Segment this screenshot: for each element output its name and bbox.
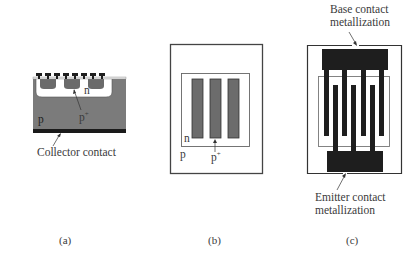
p-plus-stripe [192, 79, 203, 138]
collector-metal [33, 129, 126, 133]
label-base-contact-line1: Base contact [330, 4, 388, 16]
emitter-arrow [337, 175, 345, 190]
p-plus-pocket [88, 78, 104, 89]
label-collector-contact: Collector contact [37, 147, 116, 159]
label-b-p: p [180, 149, 186, 161]
label-a-p-plus: p+ [79, 111, 89, 123]
caption-c: (c) [346, 235, 358, 246]
label-emitter-contact-line1: Emitter contact [315, 192, 386, 204]
emitter-contact-pad [327, 151, 383, 172]
emitter-finger [370, 85, 375, 152]
base-finger [342, 69, 347, 136]
p-plus-pocket [40, 78, 56, 89]
emitter-finger [351, 85, 356, 152]
label-emitter-contact-line2: metallization [315, 205, 375, 217]
figure-canvas [0, 0, 419, 263]
oxide-layer [33, 77, 126, 79]
label-a-n: n [84, 85, 90, 97]
base-finger [324, 69, 329, 136]
emitter-finger [333, 85, 338, 152]
p-plus-stripe [228, 79, 239, 138]
base-contact-pad [322, 49, 388, 70]
caption-a: (a) [59, 235, 71, 246]
caption-b: (b) [208, 235, 221, 246]
label-b-n: n [184, 133, 190, 145]
panel-c-metallization [308, 32, 402, 190]
label-base-contact-line2: metallization [330, 17, 390, 29]
p-plus-pocket [64, 78, 80, 89]
base-finger [361, 69, 366, 136]
p-plus-stripe [210, 79, 221, 138]
label-a-p-substrate: p [38, 114, 44, 126]
label-b-p-plus: p+ [211, 151, 221, 163]
base-finger [379, 69, 384, 136]
panel-a-cross-section [33, 73, 126, 146]
